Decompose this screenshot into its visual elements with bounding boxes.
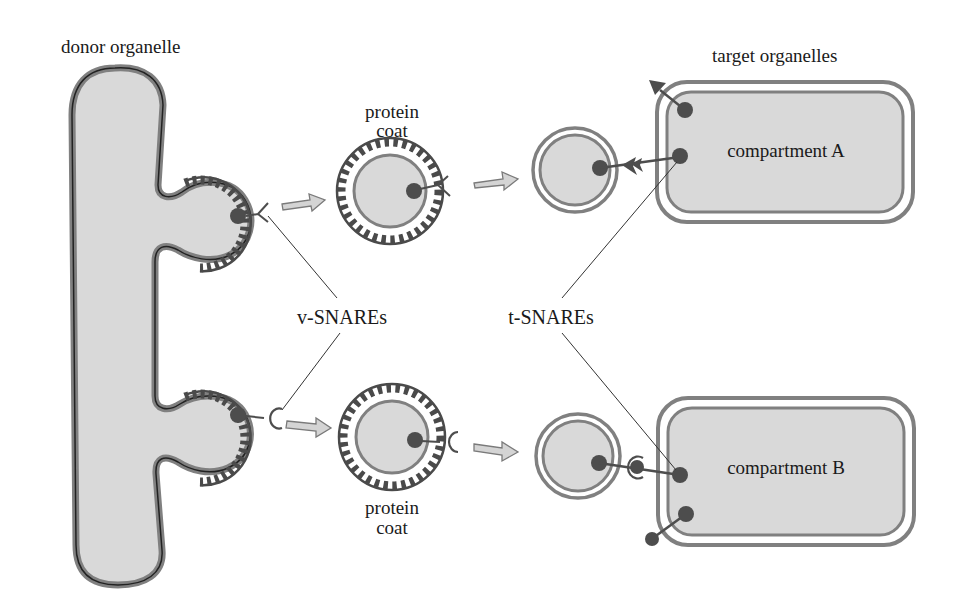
t-snares-label: t-SNAREs: [508, 306, 594, 328]
compartment-a: compartment A: [600, 80, 913, 222]
t-snare-b-upper-dot: [672, 467, 688, 483]
v-snares-leader-bottom: [282, 333, 340, 410]
compartment-b-label: compartment B: [727, 457, 845, 478]
protein-coat-label-top-line1: protein: [365, 101, 419, 122]
compartment-b: compartment B: [599, 398, 914, 546]
v-snare-stalk-vesicle-bottom: [421, 441, 440, 442]
arrow-vesicle-to-uncoated-bottom: [474, 442, 518, 461]
coated-vesicle-bottom: [339, 384, 458, 490]
v-snares-leader-top: [268, 216, 337, 298]
uncoated-vesicle-top: [533, 128, 617, 212]
arrow-bud-to-vesicle-top: [282, 194, 325, 211]
v-snares-label: v-SNAREs: [297, 306, 387, 328]
uncoated-vesicle-bottom: [536, 414, 620, 498]
t-snare-b-lower-dot: [678, 506, 694, 522]
v-snare-dot-top-bud: [230, 208, 246, 224]
v-snare-dot-bottom-bud: [230, 407, 246, 423]
t-snare-a-lower-dot: [672, 148, 688, 164]
protein-coat-label-top-line2: coat: [376, 120, 408, 141]
arrow-bud-to-vesicle-bottom: [286, 418, 331, 437]
donor-organelle-body: [72, 68, 251, 585]
v-snare-cup-vesicle-bottom: [449, 432, 458, 452]
target-organelles-label: target organelles: [712, 45, 837, 66]
v-snare-dot-vesicle-top: [406, 183, 422, 199]
v-snare-dot-vesicle-bottom: [407, 432, 423, 448]
protein-coat-label-bottom-line1: protein: [365, 497, 419, 518]
donor-organelle-label: donor organelle: [61, 36, 180, 57]
v-snare-cup-bottom-bud: [270, 408, 282, 428]
compartment-a-label: compartment A: [727, 140, 845, 161]
protein-coat-label-bottom-line2: coat: [376, 517, 408, 538]
arrow-vesicle-to-uncoated-top: [474, 172, 518, 190]
t-snare-b-ball: [630, 460, 644, 474]
coated-vesicle-top: [337, 138, 450, 244]
t-snare-b-lower-ball: [645, 532, 659, 546]
donor-organelle: [72, 68, 282, 585]
t-snare-a-upper-dot: [677, 102, 693, 118]
snare-vesicle-targeting-diagram: protein coat protein coat compartment A: [0, 0, 976, 596]
